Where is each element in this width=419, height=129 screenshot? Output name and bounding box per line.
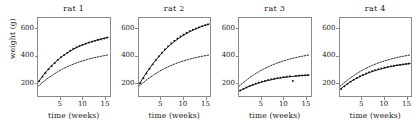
data-point bbox=[88, 42, 90, 44]
y-tick-label: 200 bbox=[213, 80, 235, 87]
data-point bbox=[362, 74, 364, 76]
data-point bbox=[192, 29, 194, 31]
y-tick-label: 400 bbox=[213, 52, 235, 59]
data-point bbox=[286, 76, 288, 78]
x-axis-label: time (weeks) bbox=[138, 111, 212, 120]
x-tick-label: 10 bbox=[75, 101, 89, 108]
y-tick-mark bbox=[336, 56, 339, 57]
data-point bbox=[383, 67, 385, 69]
data-point bbox=[195, 28, 197, 30]
data-point bbox=[307, 74, 309, 76]
data-point bbox=[79, 45, 81, 47]
data-point bbox=[148, 68, 150, 70]
data-point bbox=[100, 39, 102, 41]
data-point bbox=[346, 83, 348, 85]
y-tick-mark bbox=[35, 28, 38, 29]
data-point bbox=[368, 71, 370, 73]
y-tick-mark bbox=[35, 56, 38, 57]
data-point bbox=[207, 24, 209, 26]
data-point bbox=[154, 59, 156, 61]
x-tick-mark bbox=[183, 97, 184, 100]
plot-frame bbox=[138, 17, 212, 97]
fitted-curve bbox=[340, 63, 411, 89]
x-tick-label: 5 bbox=[53, 101, 67, 108]
data-point bbox=[54, 62, 56, 64]
data-point bbox=[106, 37, 108, 39]
plot-frame bbox=[238, 17, 312, 97]
x-axis-label: time (weeks) bbox=[238, 111, 312, 120]
x-tick-label: 5 bbox=[153, 101, 167, 108]
data-point bbox=[340, 88, 342, 90]
data-point bbox=[69, 50, 71, 52]
data-point bbox=[167, 45, 169, 47]
data-point bbox=[48, 68, 50, 70]
data-point bbox=[38, 80, 40, 82]
x-tick-mark bbox=[105, 97, 106, 100]
data-point bbox=[179, 36, 181, 38]
data-point bbox=[393, 65, 395, 67]
x-tick-mark bbox=[407, 97, 408, 100]
panel-rat-4: rat 420040060051015time (weeks) bbox=[339, 0, 413, 129]
data-point bbox=[289, 75, 291, 77]
data-point bbox=[66, 52, 68, 54]
x-axis-label: time (weeks) bbox=[339, 111, 413, 120]
data-point bbox=[343, 85, 345, 87]
observed-points bbox=[239, 74, 308, 91]
data-point bbox=[359, 76, 361, 78]
panel-title: rat 2 bbox=[138, 4, 212, 13]
plot-canvas bbox=[340, 18, 412, 96]
figure-panel-grid: weight (g) rat 120040060051015time (week… bbox=[0, 0, 419, 129]
data-point bbox=[57, 59, 59, 61]
data-point bbox=[386, 66, 388, 68]
data-point bbox=[176, 38, 178, 40]
population-curve bbox=[38, 55, 109, 86]
data-point bbox=[204, 24, 206, 26]
population-curve bbox=[239, 55, 310, 86]
data-point bbox=[173, 40, 175, 42]
data-point bbox=[42, 76, 44, 78]
x-tick-mark bbox=[384, 97, 385, 100]
data-point bbox=[280, 77, 282, 79]
data-point bbox=[295, 75, 297, 77]
y-tick-mark bbox=[236, 83, 239, 84]
fitted-curve bbox=[139, 24, 210, 85]
population-curve bbox=[139, 55, 210, 86]
plot-canvas bbox=[38, 18, 110, 96]
panel-rat-3: rat 320040060051015time (weeks) bbox=[238, 0, 312, 129]
data-point bbox=[182, 34, 184, 36]
data-point bbox=[82, 44, 84, 46]
data-point bbox=[45, 72, 47, 74]
y-tick-label: 600 bbox=[213, 25, 235, 32]
data-point bbox=[145, 73, 147, 75]
y-tick-mark bbox=[135, 56, 138, 57]
x-tick-label: 5 bbox=[354, 101, 368, 108]
plot-frame bbox=[339, 17, 413, 97]
x-tick-mark bbox=[82, 97, 83, 100]
x-tick-label: 5 bbox=[254, 101, 268, 108]
observed-points bbox=[38, 37, 107, 82]
panel-title: rat 3 bbox=[238, 4, 312, 13]
data-point bbox=[377, 68, 379, 70]
data-point bbox=[97, 39, 99, 41]
panel-rat-2: rat 220040060051015time (weeks) bbox=[138, 0, 212, 129]
data-point bbox=[60, 56, 62, 58]
data-point bbox=[349, 81, 351, 83]
y-tick-label: 600 bbox=[314, 25, 336, 32]
data-point bbox=[76, 46, 78, 48]
data-point bbox=[304, 74, 306, 76]
data-point bbox=[267, 79, 269, 81]
x-tick-mark bbox=[361, 97, 362, 100]
data-point bbox=[273, 78, 275, 80]
x-tick-label: 10 bbox=[176, 101, 190, 108]
data-point bbox=[91, 41, 93, 43]
x-tick-mark bbox=[261, 97, 262, 100]
y-tick-mark bbox=[135, 28, 138, 29]
data-point bbox=[94, 40, 96, 42]
x-tick-label: 10 bbox=[276, 101, 290, 108]
observed-points bbox=[340, 63, 409, 90]
x-tick-mark bbox=[60, 97, 61, 100]
y-tick-label: 200 bbox=[12, 80, 34, 87]
data-point bbox=[161, 52, 163, 54]
x-tick-label: 15 bbox=[299, 101, 313, 108]
y-tick-label: 400 bbox=[12, 52, 34, 59]
